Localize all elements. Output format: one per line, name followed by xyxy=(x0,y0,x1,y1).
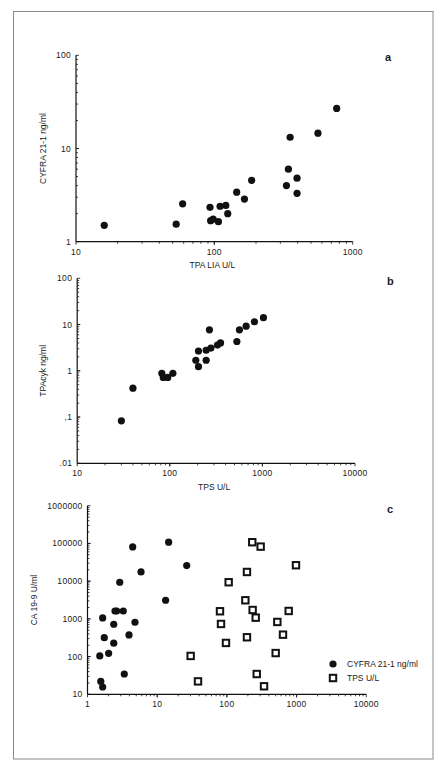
x-tick-label: 1000 xyxy=(252,468,272,478)
data-point-circle xyxy=(110,621,117,628)
data-point-square xyxy=(244,634,250,640)
data-point-circle xyxy=(285,166,292,173)
x-tick-label: 1 xyxy=(85,699,90,709)
y-tick-label: 10 xyxy=(72,689,82,699)
legend-entry-cyfra: CYFRA 21-1 ng/ml xyxy=(347,659,418,669)
data-point-square xyxy=(242,597,248,603)
data-point-circle xyxy=(206,326,213,333)
data-point-circle xyxy=(101,222,108,229)
data-point-square xyxy=(217,608,223,614)
x-tick-label: 10 xyxy=(72,468,82,478)
data-point-square xyxy=(195,678,201,684)
x-tick-label: 10 xyxy=(152,699,162,709)
data-point-square xyxy=(244,569,250,575)
x-axis-label-a: TPA LIA U/L xyxy=(190,260,236,270)
data-point-circle xyxy=(101,634,108,641)
data-point-square xyxy=(280,631,286,637)
y-axis-label-a: CYFRA 21-1 ng/ml xyxy=(38,113,48,184)
data-point-circle xyxy=(131,619,138,626)
data-point-circle xyxy=(105,650,112,657)
data-point-square xyxy=(293,562,299,568)
x-tick-label: 100 xyxy=(162,468,177,478)
data-point-circle xyxy=(137,568,144,575)
data-point-circle xyxy=(287,134,294,141)
data-point-circle xyxy=(203,357,210,364)
data-point-square xyxy=(272,650,278,656)
data-point-square xyxy=(254,671,260,677)
data-point-circle xyxy=(120,607,127,614)
data-point-circle xyxy=(162,597,169,604)
x-tick-label: 1000 xyxy=(287,699,307,709)
data-point-circle xyxy=(169,370,176,377)
y-tick-label: ,1 xyxy=(64,412,72,422)
data-point-circle xyxy=(173,221,180,228)
data-point-circle xyxy=(206,204,213,211)
y-tick-label: 1 xyxy=(66,237,71,247)
data-point-circle xyxy=(236,326,243,333)
data-point-circle xyxy=(217,339,224,346)
x-tick-label: 10 xyxy=(71,247,81,257)
data-point-circle xyxy=(129,543,136,550)
panel-label-a: a xyxy=(385,51,392,63)
data-point-circle xyxy=(99,683,106,690)
data-point-circle xyxy=(222,202,229,209)
data-point-circle xyxy=(243,323,250,330)
x-tick-label: 100 xyxy=(207,247,222,257)
data-point-circle xyxy=(224,210,231,217)
data-point-square xyxy=(285,608,291,614)
y-tick-label: 1000 xyxy=(62,614,82,624)
data-point-circle xyxy=(116,579,123,586)
panel-label-c: c xyxy=(387,503,393,515)
y-axis-label-b: TPAcyk ng/ml xyxy=(38,345,48,397)
data-point-square xyxy=(218,621,224,627)
y-tick-label: 100 xyxy=(57,273,72,283)
data-point-circle xyxy=(195,363,202,370)
y-tick-label: .01 xyxy=(59,458,72,468)
x-tick-label: 1000 xyxy=(343,247,363,257)
data-point-circle xyxy=(207,344,214,351)
x-tick-label: 100 xyxy=(219,699,234,709)
y-tick-label: 10000 xyxy=(57,576,82,586)
y-tick-label: 10 xyxy=(61,144,71,154)
data-point-square xyxy=(253,614,259,620)
data-point-square xyxy=(261,683,267,689)
data-point-square xyxy=(274,619,280,625)
data-point-circle xyxy=(333,105,340,112)
data-point-circle xyxy=(179,200,186,207)
legend-circle-marker-icon xyxy=(329,660,336,667)
data-point-square xyxy=(225,579,231,585)
y-tick-label: 1000000 xyxy=(47,501,82,511)
y-tick-label: 1 xyxy=(67,366,72,376)
data-point-circle xyxy=(165,539,172,546)
y-tick-label: 100 xyxy=(56,50,71,60)
y-tick-label: 100000 xyxy=(52,538,82,548)
y-tick-label: 100 xyxy=(67,652,82,662)
data-point-circle xyxy=(293,175,300,182)
data-point-circle xyxy=(195,347,202,354)
data-point-circle xyxy=(113,607,120,614)
x-axis-label-b: TPS U/L xyxy=(198,482,230,492)
data-point-circle xyxy=(183,562,190,569)
data-point-circle xyxy=(283,182,290,189)
data-point-circle xyxy=(118,417,125,424)
data-point-circle xyxy=(248,177,255,184)
data-point-circle xyxy=(110,640,117,647)
panel-label-b: b xyxy=(387,275,394,287)
data-point-circle xyxy=(233,189,240,196)
data-point-circle xyxy=(314,130,321,137)
data-point-circle xyxy=(96,652,103,659)
data-point-circle xyxy=(192,357,199,364)
data-point-circle xyxy=(215,218,222,225)
legend-entry-tps: TPS U/L xyxy=(347,673,379,683)
data-point-square xyxy=(249,539,255,545)
legend-square-marker-icon xyxy=(330,675,336,681)
data-point-circle xyxy=(241,195,248,202)
data-point-circle xyxy=(251,318,258,325)
data-point-square xyxy=(223,640,229,646)
data-point-circle xyxy=(125,631,132,638)
y-axis-label-c: CA 19-9 U/ml xyxy=(29,575,39,626)
data-point-circle xyxy=(99,614,106,621)
data-point-circle xyxy=(121,670,128,677)
figure-canvas: 101001000110100 a TPA LIA U/L CYFRA 21-1… xyxy=(0,0,441,763)
data-point-circle xyxy=(233,338,240,345)
